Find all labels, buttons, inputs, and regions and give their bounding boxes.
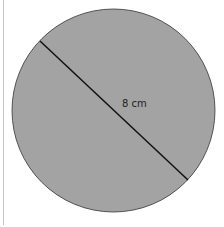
circle-diagram: 8 cm [0, 0, 224, 227]
diameter-label: 8 cm [122, 98, 147, 109]
